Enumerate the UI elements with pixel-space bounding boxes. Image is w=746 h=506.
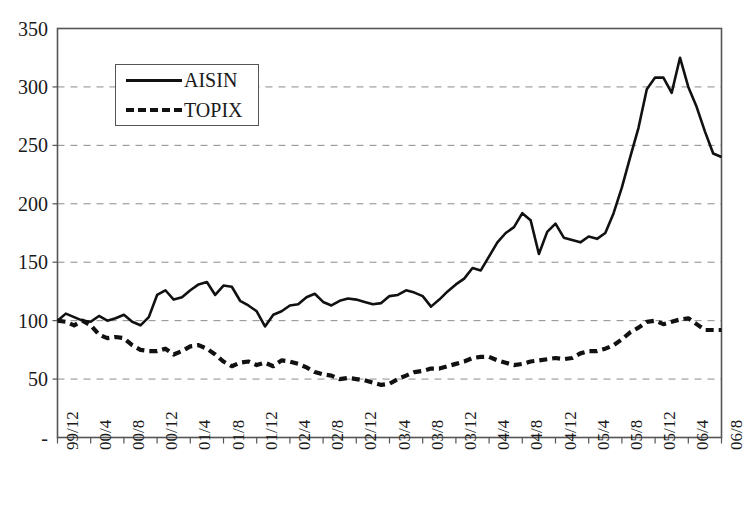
x-axis-tick-label: 02/8 <box>329 419 346 449</box>
legend-item-topix: TOPIX <box>116 95 258 125</box>
x-axis-tick-label: 01/8 <box>230 419 247 449</box>
x-axis-tick-label: 01/4 <box>196 419 213 449</box>
x-axis-tick-label: 05/8 <box>628 419 645 449</box>
x-axis-tick-label: 02/4 <box>296 419 313 449</box>
x-axis-tick-label: 04/12 <box>562 411 579 450</box>
x-axis-tick-label: 01/12 <box>263 411 280 450</box>
x-axis-tick-label: 03/4 <box>396 419 413 449</box>
x-axis-tick-label: 03/12 <box>462 411 479 450</box>
y-axis-tick-label: 350 <box>0 19 48 39</box>
x-axis-tick-label: 00/12 <box>163 411 180 450</box>
x-axis-tick-label: 00/8 <box>130 419 147 449</box>
y-axis-tick-label: 200 <box>0 194 48 214</box>
y-axis-tick-label: 100 <box>0 311 48 331</box>
x-axis-tick-label: 05/12 <box>661 411 678 450</box>
x-axis-tick-label: 99/12 <box>64 411 81 450</box>
x-axis-tick-label: 00/4 <box>97 419 114 449</box>
y-axis-tick-label: - <box>0 428 48 448</box>
legend-swatch-dashed-line <box>126 108 182 112</box>
y-axis-tick-label: 300 <box>0 77 48 97</box>
legend-label-topix: TOPIX <box>184 99 243 122</box>
x-axis-tick-label: 04/8 <box>528 419 545 449</box>
axis-ticks <box>53 87 722 444</box>
y-axis-tick-label: 250 <box>0 135 48 155</box>
x-axis-tick-label: 06/8 <box>728 419 745 449</box>
x-axis-tick-label: 05/4 <box>595 419 612 449</box>
x-axis-tick-label: 02/12 <box>362 411 379 450</box>
legend-swatch-solid-line <box>126 79 182 82</box>
x-axis-tick-label: 03/8 <box>429 419 446 449</box>
y-axis-tick-label: 150 <box>0 252 48 272</box>
series-line-topix <box>58 318 722 385</box>
x-axis-tick-label: 06/4 <box>694 419 711 449</box>
legend-label-aisin: AISIN <box>184 69 237 92</box>
legend-item-aisin: AISIN <box>116 65 258 95</box>
chart-legend: AISIN TOPIX <box>115 64 259 126</box>
x-axis-tick-label: 04/4 <box>495 419 512 449</box>
gridlines <box>58 87 722 379</box>
y-axis-tick-label: 50 <box>0 369 48 389</box>
